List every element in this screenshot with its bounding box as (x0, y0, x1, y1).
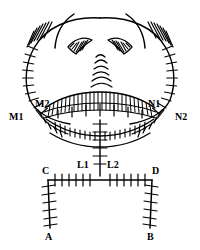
label-n1: N1 (148, 99, 160, 109)
anatomical-line-drawing (0, 0, 200, 250)
left-leg (48, 180, 50, 228)
label-m2: M2 (35, 99, 49, 109)
label-l1: L1 (77, 160, 89, 170)
label-c: C (42, 166, 49, 176)
label-a: A (45, 232, 52, 242)
crescent-pad-right (108, 38, 132, 54)
right-leg (150, 180, 152, 228)
label-l2: L2 (107, 160, 119, 170)
figure-canvas: M1 M2 N1 N2 L1 L2 C D A B (0, 0, 200, 250)
label-b: B (147, 232, 154, 242)
crescent-pad-left (68, 38, 92, 54)
hatch-fan-left (27, 22, 52, 47)
label-m1: M1 (9, 112, 23, 122)
dorsal-sweep-arcs (55, 14, 145, 48)
hatch-fan-right (148, 22, 173, 47)
label-d: D (152, 166, 159, 176)
label-n2: N2 (175, 112, 187, 122)
median-chevron-stack (91, 55, 112, 87)
